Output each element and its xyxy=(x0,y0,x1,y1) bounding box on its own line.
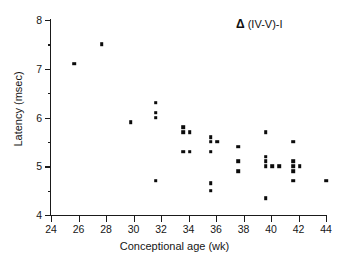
y-tick-label: 7 xyxy=(36,64,42,75)
y-tick-label: 8 xyxy=(36,15,42,26)
data-point xyxy=(236,169,240,173)
series-annotation-label: Δ (IV-V)-I xyxy=(236,18,283,31)
y-tick-label: 5 xyxy=(36,161,42,172)
annotation-text: (IV-V)-I xyxy=(248,18,283,30)
x-tick-label: 24 xyxy=(45,224,57,235)
data-point xyxy=(154,111,158,115)
x-tick-major xyxy=(106,216,107,222)
x-tick-major xyxy=(134,216,135,222)
plot-data-area xyxy=(51,20,326,215)
data-point xyxy=(264,155,268,159)
data-point xyxy=(277,164,281,168)
x-tick-label: 44 xyxy=(320,224,332,235)
scatter-plot-figure: 45678 2426283032343638404244 Δ (IV-V)-I … xyxy=(0,0,349,264)
x-tick-major xyxy=(244,216,245,222)
data-point xyxy=(209,182,213,186)
data-point xyxy=(181,150,185,154)
x-axis-ticks: 2426283032343638404244 xyxy=(51,216,326,223)
data-point xyxy=(209,140,213,144)
data-point xyxy=(154,116,158,120)
data-point xyxy=(264,196,268,200)
data-point xyxy=(188,150,192,154)
x-tick-major xyxy=(326,216,327,222)
data-point xyxy=(209,189,213,193)
x-tick-label: 32 xyxy=(155,224,167,235)
y-axis-title: Latency (msec) xyxy=(12,34,24,184)
y-tick-label: 4 xyxy=(36,210,42,221)
data-point xyxy=(181,125,185,129)
data-point xyxy=(154,101,158,105)
x-tick-major xyxy=(216,216,217,222)
x-tick-major xyxy=(271,216,272,222)
x-axis-title: Conceptional age (wk) xyxy=(0,240,349,252)
data-point xyxy=(291,169,295,173)
data-point xyxy=(291,179,295,183)
y-tick-label: 6 xyxy=(36,112,42,123)
y-axis-ticks: 45678 xyxy=(44,20,51,215)
data-point xyxy=(236,160,240,164)
x-tick-major xyxy=(79,216,80,222)
x-tick-major xyxy=(299,216,300,222)
data-point xyxy=(129,121,133,125)
x-tick-label: 42 xyxy=(293,224,305,235)
x-tick-label: 28 xyxy=(100,224,112,235)
data-point xyxy=(73,62,77,66)
x-tick-major xyxy=(189,216,190,222)
data-point xyxy=(209,150,213,154)
data-point xyxy=(188,130,192,134)
data-point xyxy=(324,179,328,183)
data-point xyxy=(291,164,295,168)
data-point xyxy=(264,130,268,134)
data-point xyxy=(271,164,275,168)
x-tick-label: 34 xyxy=(183,224,195,235)
data-point xyxy=(181,130,185,134)
data-point xyxy=(291,140,295,144)
data-point xyxy=(298,164,302,168)
data-point xyxy=(264,160,268,164)
x-tick-label: 38 xyxy=(238,224,250,235)
data-point xyxy=(100,43,104,47)
data-point xyxy=(264,164,268,168)
x-tick-label: 40 xyxy=(265,224,277,235)
delta-symbol: Δ xyxy=(236,17,245,31)
x-tick-major xyxy=(51,216,52,222)
data-point xyxy=(209,135,213,139)
data-point xyxy=(154,179,158,183)
x-tick-label: 30 xyxy=(128,224,140,235)
data-point xyxy=(236,145,240,149)
x-tick-major xyxy=(161,216,162,222)
x-tick-label: 26 xyxy=(73,224,85,235)
data-point xyxy=(216,140,220,144)
x-tick-label: 36 xyxy=(210,224,222,235)
data-point xyxy=(291,160,295,164)
